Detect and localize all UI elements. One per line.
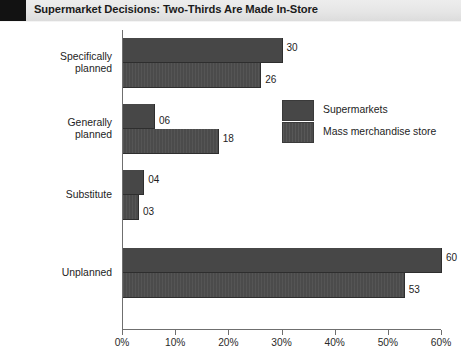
x-axis-tick	[388, 330, 389, 335]
bar	[123, 63, 261, 88]
x-axis-tick-label: 10%	[165, 337, 185, 348]
x-axis-tick-label: 40%	[324, 337, 344, 348]
legend-swatch	[282, 100, 314, 121]
bar	[123, 195, 139, 220]
x-axis-tick	[282, 330, 283, 335]
dark-square-block-icon	[0, 0, 26, 21]
x-axis-tick-label: 60%	[431, 337, 451, 348]
x-axis-tick	[335, 330, 336, 335]
bar	[123, 170, 144, 195]
x-axis-tick	[441, 330, 442, 335]
x-axis-tick	[175, 330, 176, 335]
category-label: Substitute	[66, 189, 112, 201]
bar-value-label: 30	[287, 42, 298, 53]
x-axis-tick-label: 30%	[271, 337, 291, 348]
bar-value-label: 18	[223, 133, 234, 144]
bar	[123, 38, 283, 63]
x-axis-tick	[122, 330, 123, 335]
bar	[123, 273, 405, 298]
bar-value-label: 53	[409, 284, 420, 295]
bar	[123, 129, 219, 154]
legend-label: Supermarkets	[323, 104, 388, 115]
x-axis-tick-label: 20%	[218, 337, 238, 348]
bar-value-label: 06	[159, 115, 170, 126]
chart-plot-area: 0%10%20%30%40%50%60% Specifically planne…	[0, 22, 461, 352]
category-label: Generally planned	[68, 117, 112, 142]
bar	[123, 248, 442, 273]
bar-value-label: 60	[446, 252, 457, 263]
chart-screenshot: Supermarket Decisions: Two-Thirds Are Ma…	[0, 0, 461, 352]
x-axis-tick	[228, 330, 229, 335]
bar-value-label: 04	[148, 174, 159, 185]
legend-label: Mass merchandise store	[323, 126, 436, 137]
category-label: Unplanned	[62, 267, 112, 279]
legend-swatch	[282, 122, 314, 143]
bar-value-label: 26	[265, 74, 276, 85]
bar-value-label: 03	[143, 206, 154, 217]
page-title: Supermarket Decisions: Two-Thirds Are Ma…	[34, 3, 318, 15]
category-label: Specifically planned	[60, 51, 112, 76]
bar	[123, 104, 155, 129]
x-axis-tick-label: 50%	[378, 337, 398, 348]
x-axis-tick-label: 0%	[115, 337, 130, 348]
title-bar: Supermarket Decisions: Two-Thirds Are Ma…	[0, 0, 461, 21]
